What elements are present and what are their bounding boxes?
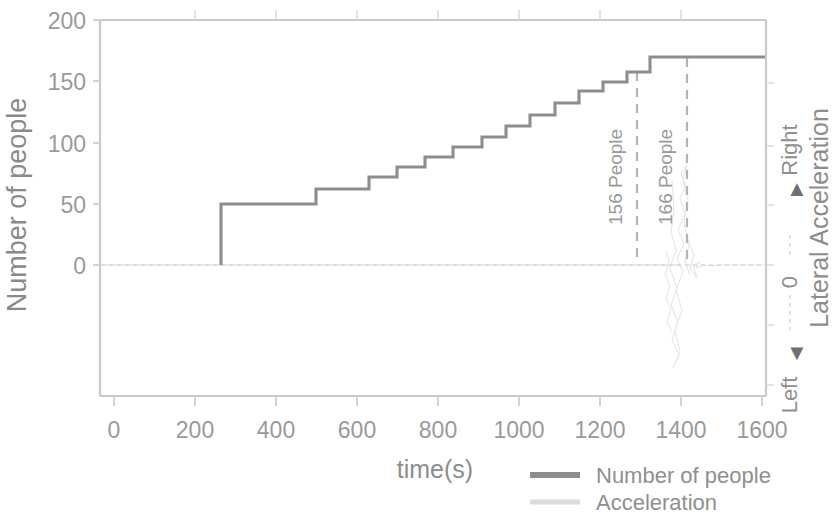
annotation-labels: 156 People 166 People	[605, 129, 676, 225]
x-tick-label-400: 400	[257, 417, 295, 443]
y-axis-title: Number of people	[2, 98, 32, 313]
x-tick-label-1200: 1200	[574, 417, 625, 443]
y-tick-label-100: 100	[48, 131, 86, 157]
annotation-label-166: 166 People	[655, 129, 676, 225]
y2-label-right: Right	[777, 124, 802, 175]
y2-axis-ticks	[766, 83, 774, 385]
y-axis-tick-labels: 200 150 100 50 0	[48, 8, 86, 279]
x-tick-label-1400: 1400	[655, 417, 706, 443]
y2-label-left: Left	[777, 377, 802, 414]
legend-label-people: Number of people	[596, 463, 771, 488]
y2-direction-indicator: Right ▲ 0 ▼ Left	[777, 124, 808, 413]
x-axis-tick-labels: 0 200 400 600 800 1000 1200 1400 1600	[108, 417, 788, 443]
lateral-acceleration-people-chart: 200 150 100 50 0 Number of people	[0, 0, 839, 515]
y-tick-label-0: 0	[73, 253, 86, 279]
x-tick-label-1000: 1000	[493, 417, 544, 443]
annotation-label-156: 156 People	[605, 129, 626, 225]
y-tick-label-50: 50	[60, 192, 86, 218]
x-tick-label-600: 600	[338, 417, 376, 443]
y-tick-label-150: 150	[48, 69, 86, 95]
y2-label-zero: 0	[777, 276, 802, 288]
people-step-series	[221, 57, 765, 265]
legend-item-acceleration[interactable]: Acceleration	[530, 490, 717, 515]
x-tick-label-1600: 1600	[736, 417, 787, 443]
down-arrow-icon: ▼	[786, 340, 808, 365]
acceleration-noise-tail	[688, 240, 764, 278]
x-tick-label-800: 800	[419, 417, 457, 443]
chart-legend: Number of people Acceleration	[530, 463, 771, 515]
x-tick-label-200: 200	[176, 417, 214, 443]
chart-figure: 200 150 100 50 0 Number of people	[0, 0, 839, 515]
x-axis-title: time(s)	[397, 455, 473, 483]
y-tick-label-200: 200	[48, 8, 86, 34]
legend-item-number-of-people[interactable]: Number of people	[530, 463, 771, 488]
acceleration-noise-secondary	[665, 250, 672, 332]
legend-label-acceleration: Acceleration	[596, 490, 717, 515]
x-tick-label-0: 0	[108, 417, 121, 443]
y2-axis-title: Lateral Acceleration	[805, 108, 833, 328]
